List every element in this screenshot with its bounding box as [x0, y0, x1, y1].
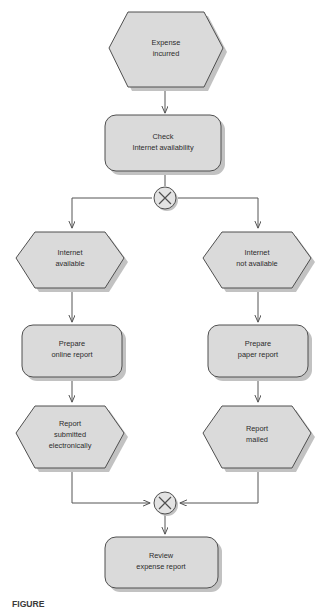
node-label-line-2: paper report: [238, 350, 278, 359]
node-label-line-1: Report: [59, 419, 81, 428]
connector-submitted-to-merge: [72, 468, 150, 503]
node-report-submitted: Report submitted electronically: [16, 406, 128, 472]
node-internet-available: Internet available: [16, 232, 128, 292]
node-label-line-2: online report: [51, 350, 92, 359]
node-prepare-paper-report: Prepare paper report: [208, 325, 312, 381]
node-label-line-1: Review: [149, 551, 174, 560]
junction-split-gateway: [154, 187, 178, 211]
node-label-line-2: not available: [236, 259, 278, 268]
figure-caption-text: FIGURE: [12, 599, 45, 609]
connector-split-to-internet-available: [72, 198, 152, 228]
node-label-line-2: submitted: [54, 430, 86, 439]
node-label-line-1: Check: [153, 132, 174, 141]
node-label-line-1: Prepare: [245, 339, 271, 348]
node-prepare-online-report: Prepare online report: [22, 325, 126, 381]
node-label-line-1: Internet: [57, 248, 82, 257]
node-label-line-2: incurred: [153, 49, 180, 58]
node-label-line-3: electronically: [49, 441, 92, 450]
node-label-line-2: expense report: [136, 562, 185, 571]
node-label-line-1: Prepare: [59, 339, 85, 348]
node-report-mailed: Report mailed: [203, 406, 315, 472]
node-label-line-2: available: [55, 259, 84, 268]
connector-split-to-internet-not-available: [178, 198, 258, 228]
junction-merge-gateway: [154, 492, 178, 516]
node-check-internet: Check Internet availability: [105, 115, 225, 175]
node-internet-not-available: Internet not available: [203, 232, 315, 292]
flowchart-diagram: Expense incurred Check Internet availabi…: [0, 0, 322, 609]
node-label-line-1: Report: [246, 424, 268, 433]
connector-mailed-to-merge: [180, 468, 258, 503]
node-label-line-2: Internet availability: [132, 143, 194, 152]
node-label-line-2: mailed: [246, 435, 268, 444]
node-review-expense-report: Review expense report: [105, 537, 222, 592]
node-label-line-1: Internet: [244, 248, 269, 257]
node-expense-incurred: Expense incurred: [109, 12, 227, 91]
figure-caption: FIGURE: [12, 599, 45, 609]
node-label-line-1: Expense: [152, 38, 181, 47]
